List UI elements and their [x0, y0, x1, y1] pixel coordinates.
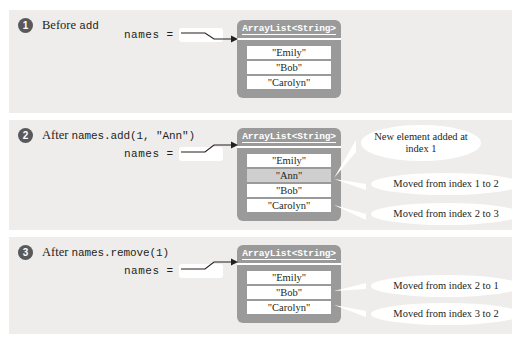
callout-moved-2-to-1: Moved from index 2 to 1 [371, 275, 521, 297]
step-1-title-code: add [79, 20, 99, 32]
step-1-arraylist-object: ArrayList<String> "Emily" "Bob" "Carolyn… [237, 20, 341, 98]
step-3-variable-cell [179, 264, 223, 278]
step-3-title: After names.remove(1) [42, 245, 169, 260]
list-item: "Emily" [247, 154, 331, 167]
list-item: "Emily" [247, 46, 331, 59]
step-1-variable-cell [179, 28, 223, 42]
step-2-variable-label: names = [124, 148, 174, 160]
step-1-variable: names = [124, 28, 223, 42]
list-item: "Bob" [247, 61, 331, 74]
list-item: "Bob" [247, 184, 331, 197]
panel-step-3: 3 After names.remove(1) names = ArrayLis… [9, 237, 512, 334]
callout-moved-3-to-2: Moved from index 3 to 2 [371, 303, 521, 325]
step-1-title-prefix: Before [42, 18, 79, 32]
step-2-variable-cell [179, 147, 223, 161]
step-3-title-prefix: After [42, 245, 72, 259]
step-3-variable-label: names = [124, 265, 174, 277]
step-2-header: 2 After names.add(1, "Ann") [18, 128, 195, 143]
step-3-badge: 3 [18, 245, 33, 260]
step-3-variable: names = [124, 264, 223, 278]
step-1-arraylist-type-label: ArrayList<String> [237, 20, 341, 40]
panel-step-1: 1 Before add names = ArrayList<String> "… [9, 10, 512, 113]
step-3-arraylist-object: ArrayList<String> "Emily" "Bob" "Carolyn… [237, 245, 341, 323]
list-item: "Emily" [247, 271, 331, 284]
step-2-variable: names = [124, 147, 223, 161]
step-2-badge: 2 [18, 128, 33, 143]
step-3-header: 3 After names.remove(1) [18, 245, 169, 260]
panel-step-2: 2 After names.add(1, "Ann") names = Arra… [9, 120, 512, 230]
list-item: "Carolyn" [247, 301, 331, 314]
step-1-type-text: ArrayList<String> [242, 23, 336, 35]
step-1-cell-list: "Emily" "Bob" "Carolyn" [237, 40, 341, 89]
step-1-badge: 1 [18, 18, 33, 33]
step-3-type-text: ArrayList<String> [242, 248, 336, 260]
step-2-arraylist-object: ArrayList<String> "Emily" "Ann" "Bob" "C… [237, 128, 341, 221]
step-1-header: 1 Before add [18, 18, 99, 33]
step-1-variable-label: names = [124, 29, 174, 41]
list-item: "Carolyn" [247, 76, 331, 89]
arraylist-diagram: 1 Before add names = ArrayList<String> "… [0, 0, 521, 343]
step-1-title: Before add [42, 18, 99, 33]
step-2-type-text: ArrayList<String> [242, 131, 336, 143]
step-2-title: After names.add(1, "Ann") [42, 128, 195, 143]
callout-moved-2-to-3: Moved from index 2 to 3 [371, 203, 521, 225]
step-3-title-code: names.remove(1) [72, 247, 170, 259]
step-3-cell-list: "Emily" "Bob" "Carolyn" [237, 265, 341, 314]
callout-moved-1-to-2: Moved from index 1 to 2 [371, 173, 521, 195]
list-item-highlighted: "Ann" [247, 169, 331, 182]
step-2-cell-list: "Emily" "Ann" "Bob" "Carolyn" [237, 148, 341, 212]
step-2-title-prefix: After [42, 128, 72, 142]
step-2-arraylist-type-label: ArrayList<String> [237, 128, 341, 148]
step-2-title-code: names.add(1, "Ann") [72, 130, 196, 142]
list-item: "Bob" [247, 286, 331, 299]
list-item: "Carolyn" [247, 199, 331, 212]
callout-new-element: New element added at index 1 [361, 125, 481, 161]
step-3-arraylist-type-label: ArrayList<String> [237, 245, 341, 265]
